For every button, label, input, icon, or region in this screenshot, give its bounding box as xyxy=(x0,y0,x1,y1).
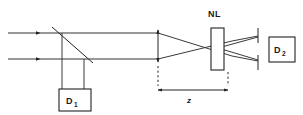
nl-sample-label: NL xyxy=(208,9,221,19)
detector-d2-label: D xyxy=(274,45,281,55)
z-distance-label: z xyxy=(186,96,191,105)
optical-setup-figure: NL D 1 D 2 z xyxy=(0,0,303,115)
beamsplitter-icon xyxy=(52,27,93,63)
diagram-canvas: NL D 1 D 2 z xyxy=(0,0,303,115)
nonlinear-sample-box xyxy=(211,28,224,70)
detector-d1-label: D xyxy=(66,96,73,106)
detector-d1-subscript: 1 xyxy=(74,101,78,108)
detector-d2-subscript: 2 xyxy=(282,50,286,57)
